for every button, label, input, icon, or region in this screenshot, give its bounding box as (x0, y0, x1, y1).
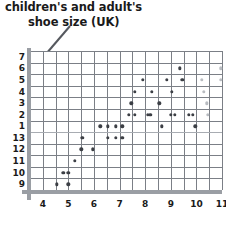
gridline-horizontal (30, 178, 222, 179)
x-tick-label: 8 (142, 199, 148, 209)
data-point (200, 78, 203, 81)
data-point (150, 90, 153, 93)
data-point (67, 171, 70, 174)
data-point (165, 78, 168, 81)
data-point (120, 125, 123, 128)
data-point (178, 67, 181, 70)
gridline-horizontal (30, 74, 222, 75)
y-tick-label: 11 (7, 156, 25, 166)
data-point (141, 78, 144, 81)
gridline-horizontal (30, 109, 222, 110)
y-tick-label: 2 (7, 110, 25, 120)
gridline-horizontal (30, 63, 222, 64)
y-tick-label: 4 (7, 87, 25, 97)
data-point (81, 136, 84, 139)
data-point (170, 90, 173, 93)
x-tick-label: 7 (116, 199, 122, 209)
gridline-horizontal (30, 121, 222, 122)
y-tick-label: 13 (7, 133, 25, 143)
y-tick-label: 1 (7, 121, 25, 131)
plot-area (30, 51, 222, 190)
x-tick-label: 6 (91, 199, 97, 209)
y-tick-label: 7 (7, 52, 25, 62)
data-point (62, 171, 65, 174)
y-axis-stub (27, 190, 31, 200)
y-tick-label: 5 (7, 75, 25, 85)
data-point (99, 125, 102, 128)
data-point (127, 113, 130, 116)
gridline-vertical (222, 51, 223, 190)
gridline-horizontal (30, 51, 222, 52)
gridline-horizontal (30, 167, 222, 168)
y-tick-label: 10 (7, 168, 25, 178)
data-point (79, 148, 82, 151)
scatter-plot-screenshot: children's and adult's shoe size (UK) 76… (0, 0, 226, 233)
y-tick-label: 3 (7, 98, 25, 108)
data-point (106, 136, 109, 139)
data-point (133, 90, 136, 93)
data-point (67, 183, 70, 186)
x-tick-label: 5 (65, 199, 71, 209)
data-point (120, 136, 123, 139)
data-point (114, 125, 117, 128)
x-tick-label: 10 (190, 199, 203, 209)
data-point (149, 113, 152, 116)
x-axis (22, 190, 222, 194)
data-point (205, 101, 208, 104)
y-axis (27, 48, 31, 196)
data-point (133, 113, 136, 116)
x-tick-label: 11 (216, 199, 226, 209)
data-point (173, 113, 176, 116)
chart-title-line-1: children's and adult's (5, 0, 142, 14)
chart-title-line-2: shoe size (UK) (28, 15, 119, 29)
y-tick-label: 6 (7, 63, 25, 73)
y-tick-label: 9 (7, 179, 25, 189)
gridline-horizontal (30, 86, 222, 87)
data-point (160, 125, 163, 128)
data-point (158, 101, 161, 104)
y-tick-label: 12 (7, 144, 25, 154)
gridline-horizontal (30, 97, 222, 98)
chart-title: children's and adult's shoe size (UK) (0, 0, 226, 32)
data-point (73, 159, 76, 162)
data-point (191, 113, 194, 116)
gridline-horizontal (30, 144, 222, 145)
data-point (106, 125, 109, 128)
data-point (202, 90, 205, 93)
x-tick-label: 9 (168, 199, 174, 209)
data-point (55, 183, 58, 186)
y-axis-tick-labels: 7654321131211109 (0, 0, 25, 233)
x-tick-label: 4 (40, 199, 46, 209)
gridline-horizontal (30, 132, 222, 133)
gridline-horizontal (30, 155, 222, 156)
data-point (114, 136, 117, 139)
